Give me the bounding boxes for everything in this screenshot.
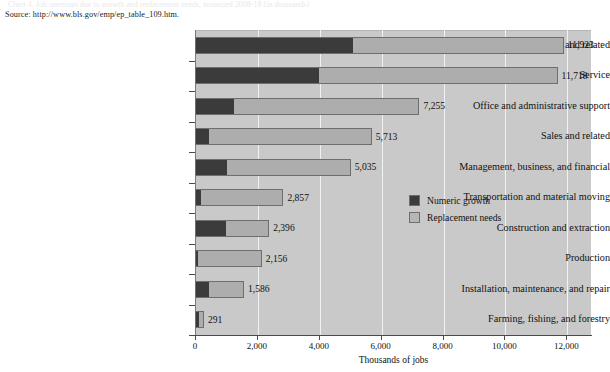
x-axis-tick: [381, 335, 382, 340]
bar-segment-numeric-growth: [196, 160, 227, 175]
bar-value-label: 2,156: [266, 253, 288, 264]
bar-segment-replacement-needs: [234, 99, 418, 114]
bar-segment-replacement-needs: [319, 68, 556, 83]
bar-value-label: 1,586: [248, 283, 270, 294]
bar-segment-numeric-growth: [196, 282, 209, 297]
bar-segment-numeric-growth: [196, 99, 234, 114]
x-axis-tick: [257, 335, 258, 340]
chart-figure: Chart 4. Job openings due to growth and …: [0, 0, 610, 372]
x-axis-line: [195, 335, 592, 336]
x-axis-tick-label: 6,000: [371, 341, 391, 351]
x-axis-tick-label: 2,000: [247, 341, 267, 351]
x-axis-tick: [504, 335, 505, 340]
category-label: Construction and extraction: [422, 222, 610, 234]
bar: [195, 37, 564, 54]
bar: [195, 220, 269, 237]
bar: [195, 159, 351, 176]
x-axis-tick-label: 0: [193, 341, 198, 351]
bar-value-label: 7,255: [423, 100, 445, 111]
source-note: Source: http://www.bls.gov/emp/ep_table_…: [5, 10, 179, 19]
category-label: Management, business, and financial: [422, 161, 610, 173]
bar-segment-numeric-growth: [196, 38, 353, 53]
category-axis-tick: [189, 335, 195, 336]
category-axis-tick: [189, 274, 195, 275]
x-axis-tick: [443, 335, 444, 340]
category-axis-tick: [189, 183, 195, 184]
bar-segment-replacement-needs: [209, 129, 371, 144]
bar-segment-replacement-needs: [198, 251, 261, 266]
bar: [195, 281, 244, 298]
bar-segment-replacement-needs: [353, 38, 563, 53]
category-label: Installation, maintenance, and repair: [422, 283, 610, 295]
bar-value-label: 5,035: [355, 161, 377, 172]
clipped-caption: Chart 4. Job openings due to growth and …: [8, 0, 602, 7]
category-label: Sales and related: [422, 130, 610, 142]
bar: [195, 128, 372, 145]
x-axis-tick-label: 8,000: [432, 341, 452, 351]
x-axis-tick-label: 10,000: [492, 341, 517, 351]
category-axis-tick: [189, 305, 195, 306]
category-axis-tick: [189, 122, 195, 123]
bar-value-label: 2,396: [273, 222, 295, 233]
x-axis-tick-label: 12,000: [554, 341, 579, 351]
bar-value-label: 5,713: [376, 131, 398, 142]
bar-segment-replacement-needs: [199, 312, 203, 327]
x-axis-tick: [319, 335, 320, 340]
category-axis-tick: [189, 152, 195, 153]
bar: [195, 250, 262, 267]
bar-segment-numeric-growth: [196, 129, 209, 144]
legend-swatch-growth-icon: [409, 195, 420, 206]
bar-value-label: 2,857: [287, 192, 309, 203]
bar-segment-replacement-needs: [227, 160, 350, 175]
bar: [195, 98, 419, 115]
category-axis-tick: [189, 61, 195, 62]
category-label: Production: [422, 252, 610, 264]
x-axis-tick-label: 4,000: [309, 341, 329, 351]
bar-segment-replacement-needs: [226, 221, 268, 236]
category-axis-tick: [189, 213, 195, 214]
bar-value-label: 11,718: [562, 70, 588, 81]
category-axis-tick: [189, 244, 195, 245]
plot-top-border: [196, 30, 591, 31]
x-axis-tick: [566, 335, 567, 340]
x-axis-tick: [195, 335, 196, 340]
x-axis-title: Thousands of jobs: [195, 355, 592, 365]
bar-value-label: 11,923: [568, 39, 594, 50]
bar: [195, 311, 204, 328]
category-label: Office and administrative support: [422, 100, 610, 112]
bar-value-label: 291: [208, 314, 222, 325]
bar-segment-numeric-growth: [196, 221, 226, 236]
bar-segment-replacement-needs: [201, 190, 283, 205]
bar: [195, 189, 283, 206]
bar-segment-numeric-growth: [196, 68, 319, 83]
category-axis-tick: [189, 91, 195, 92]
bar-segment-replacement-needs: [209, 282, 243, 297]
bar: [195, 67, 558, 84]
legend-swatch-replacement-icon: [409, 212, 420, 223]
category-label: Farming, fishing, and forestry: [422, 313, 610, 325]
category-label: Transportation and material moving: [422, 191, 610, 203]
